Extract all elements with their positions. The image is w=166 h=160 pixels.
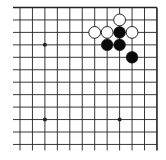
white-stone — [101, 27, 113, 39]
black-stone — [114, 39, 126, 51]
black-stone — [101, 39, 113, 51]
star-point — [43, 43, 47, 47]
go-board — [0, 0, 166, 160]
stones — [89, 14, 138, 63]
black-stone — [126, 51, 138, 63]
black-stone — [114, 27, 126, 39]
white-stone — [89, 27, 101, 39]
white-stone — [114, 14, 126, 26]
star-point — [118, 118, 122, 122]
white-stone — [126, 27, 138, 39]
star-point — [43, 118, 47, 122]
